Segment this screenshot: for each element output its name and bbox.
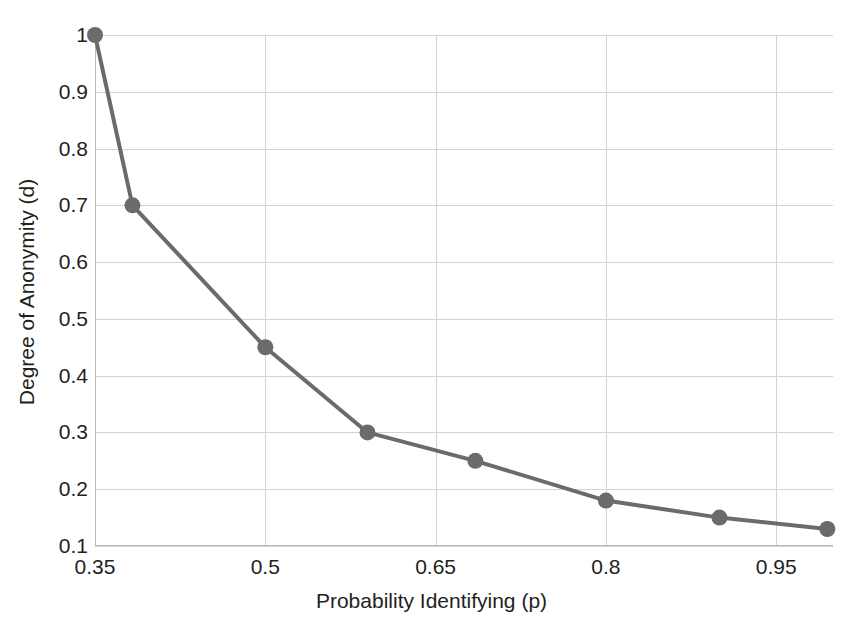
y-tick-label: 0.6: [59, 251, 88, 272]
y-tick-label: 0.7: [59, 194, 88, 215]
y-tick-label: 0.1: [59, 535, 88, 556]
data-point-marker: [711, 510, 727, 526]
y-axis-tick-labels: 10.90.80.70.60.50.40.30.20.1: [0, 0, 88, 639]
series-line-0: [95, 35, 827, 529]
data-point-marker: [819, 521, 835, 537]
x-tick-label: 0.8: [591, 556, 620, 577]
y-tick-label: 0.5: [59, 308, 88, 329]
plot-area: [95, 35, 833, 546]
data-series-line: [95, 35, 833, 546]
y-tick-label: 0.4: [59, 365, 88, 386]
x-axis-title: Probability Identifying (p): [0, 589, 863, 613]
y-tick-label: 0.3: [59, 421, 88, 442]
x-tick-label: 0.5: [251, 556, 280, 577]
y-tick-label: 0.8: [59, 138, 88, 159]
data-point-marker: [598, 493, 614, 509]
x-tick-label: 0.65: [415, 556, 456, 577]
y-axis-title: Degree of Anonymity (d): [15, 102, 39, 482]
chart-container: 10.90.80.70.60.50.40.30.20.1 0.350.50.65…: [0, 0, 863, 639]
y-tick-label: 1: [76, 24, 88, 45]
y-tick-label: 0.9: [59, 81, 88, 102]
data-point-marker: [467, 453, 483, 469]
y-tick-label: 0.2: [59, 478, 88, 499]
data-point-marker: [87, 27, 103, 43]
x-axis-tick-labels: 0.350.50.650.80.95: [0, 556, 863, 586]
x-tick-label: 0.95: [756, 556, 797, 577]
data-point-marker: [359, 424, 375, 440]
x-tick-label: 0.35: [75, 556, 116, 577]
data-point-marker: [124, 197, 140, 213]
gridline-y-9: [95, 546, 833, 547]
data-point-marker: [257, 339, 273, 355]
